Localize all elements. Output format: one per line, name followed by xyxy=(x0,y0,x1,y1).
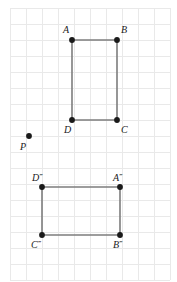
vertex-dot-c-triple-prime xyxy=(39,232,45,238)
geometry-diagram: ABCDD‴A‴B‴C‴P xyxy=(0,0,177,282)
rectangle-abcd-triple-prime-outline xyxy=(42,187,120,235)
vertex-dot-c xyxy=(114,117,120,123)
point-label-p: P xyxy=(19,141,26,152)
vertex-label-b: B xyxy=(121,24,127,35)
rectangle-abcd-outline xyxy=(72,40,117,120)
vertex-dot-d-triple-prime xyxy=(39,184,45,190)
vertex-label-a-triple-prime: A‴ xyxy=(112,172,123,183)
vertex-dot-b-triple-prime xyxy=(117,232,123,238)
vertex-dot-a xyxy=(69,37,75,43)
standalone-points xyxy=(26,133,32,139)
point-dot-p xyxy=(26,133,32,139)
vertex-label-a: A xyxy=(62,24,70,35)
vertex-dot-d xyxy=(69,117,75,123)
prime-marks: ‴ xyxy=(38,239,42,247)
vertex-label-d-triple-prime: D‴ xyxy=(31,172,43,183)
vertex-dot-b xyxy=(114,37,120,43)
vertex-label-c: C xyxy=(121,124,128,135)
vertex-label-d: D xyxy=(63,124,72,135)
vertex-dots xyxy=(39,37,123,238)
diagram-canvas: ABCDD‴A‴B‴C‴P xyxy=(0,0,177,282)
vertex-dot-a-triple-prime xyxy=(117,184,123,190)
